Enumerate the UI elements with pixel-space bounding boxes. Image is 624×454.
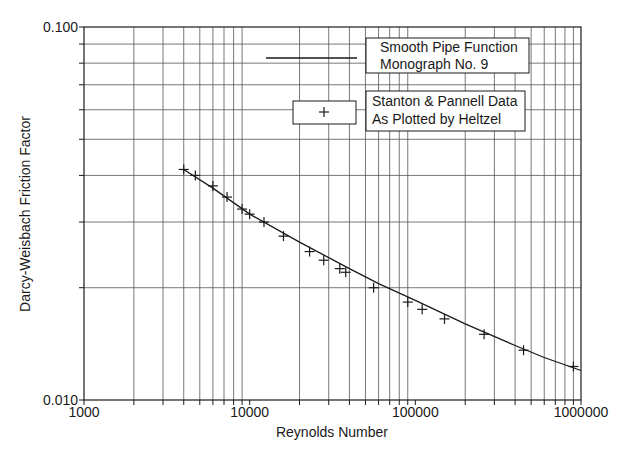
legend-label-smooth-pipe-line2: Monograph No. 9 (380, 56, 488, 72)
data-point-plus-marker (568, 361, 578, 371)
x-tick-label: 1000000 (554, 404, 609, 420)
data-point-plus-marker (179, 164, 189, 174)
data-point-plus-marker (208, 181, 218, 191)
data-point-plus-marker (259, 217, 269, 227)
y-tick-labels: 0.0100.100 (43, 19, 78, 408)
y-tick-label: 0.010 (43, 392, 78, 408)
axis-ticks (79, 27, 581, 405)
friction-factor-chart: 1000100001000001000000 0.0100.100 Smooth… (0, 0, 624, 454)
x-tick-label: 10000 (230, 404, 269, 420)
y-axis-title: Darcy-Weisbach Friction Factor (17, 116, 33, 312)
legend-label-smooth-pipe-line1: Smooth Pipe Function (380, 39, 518, 55)
legend-label-stanton-line2: As Plotted by Heltzel (372, 111, 501, 127)
x-axis-title: Reynolds Number (276, 424, 388, 440)
data-point-plus-marker (245, 209, 255, 219)
legend-label-stanton-line1: Stanton & Pannell Data (372, 93, 518, 109)
data-point-plus-marker (519, 345, 529, 355)
data-point-plus-marker (305, 247, 315, 257)
data-point-plus-marker (369, 283, 379, 293)
plot-frame (84, 27, 581, 400)
y-tick-label: 0.100 (43, 19, 78, 35)
data-point-plus-marker (278, 231, 288, 241)
smooth-pipe-function-line (184, 170, 581, 371)
grid-lines (84, 27, 581, 400)
x-tick-labels: 1000100001000001000000 (68, 404, 608, 420)
x-tick-label: 100000 (392, 404, 439, 420)
